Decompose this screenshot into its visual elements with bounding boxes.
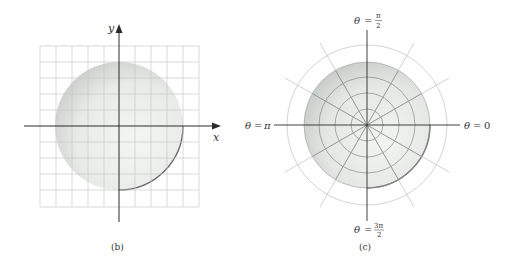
svg-text:0: 0 (484, 120, 490, 131)
svg-text:=: = (254, 120, 262, 131)
svg-text:π: π (376, 12, 381, 20)
svg-text:π: π (263, 120, 271, 131)
label-theta-3pi-over-2: θ = 3π 2 (354, 222, 384, 239)
x-axis-arrow-icon (212, 123, 221, 130)
svg-text:θ: θ (464, 120, 470, 131)
svg-text:θ: θ (354, 15, 360, 26)
y-axis-label: y (107, 22, 115, 35)
panel-b-cartesian: x y (b) (24, 22, 221, 252)
y-axis-arrow-icon (116, 24, 123, 33)
caption-c: (c) (359, 242, 371, 252)
svg-text:=: = (473, 120, 481, 131)
label-theta-0: θ = 0 (464, 120, 490, 131)
svg-text:2: 2 (376, 22, 380, 30)
svg-text:=: = (364, 224, 372, 235)
panel-c-polar: θ = π 2 θ = π θ = 0 θ = 3π 2 (c) (245, 12, 490, 252)
figure: x y (b) (0, 0, 506, 263)
caption-b: (b) (111, 242, 124, 252)
svg-text:=: = (364, 15, 372, 26)
svg-text:θ: θ (354, 224, 360, 235)
svg-text:θ: θ (245, 120, 251, 131)
x-axis-label: x (213, 131, 220, 144)
svg-text:3π: 3π (374, 222, 383, 230)
svg-text:2: 2 (377, 231, 381, 239)
label-theta-pi-over-2: θ = π 2 (354, 12, 382, 30)
label-theta-pi: θ = π (245, 120, 271, 131)
